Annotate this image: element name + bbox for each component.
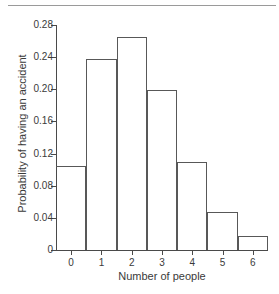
x-tick-label: 0 <box>68 257 74 268</box>
page-divider-rule <box>8 5 276 6</box>
y-tick-label: 0.04 <box>34 213 53 223</box>
y-tick-label: 0.28 <box>34 20 53 30</box>
y-tick-label: 0.24 <box>34 52 53 62</box>
figure-histogram: 00.040.080.120.160.200.240.28 0123456 Pr… <box>0 0 279 294</box>
x-tick-label: 6 <box>250 257 256 268</box>
bar <box>147 90 177 250</box>
x-tick-mark <box>132 250 133 255</box>
bar <box>56 166 86 250</box>
bar <box>117 37 147 250</box>
x-axis-label: Number of people <box>56 270 268 283</box>
y-axis-label-text: Probability of having an accident <box>14 11 30 256</box>
x-tick-mark <box>71 250 72 255</box>
y-tick-label: 0 <box>47 245 53 255</box>
plot-area <box>56 25 268 250</box>
x-tick-label: 1 <box>99 257 105 268</box>
x-tick-label: 3 <box>159 257 165 268</box>
y-axis-label: Probability of having an accident <box>14 0 30 256</box>
x-tick-label: 4 <box>190 257 196 268</box>
y-tick-label: 0.16 <box>34 116 53 126</box>
bar <box>238 236 268 250</box>
bar <box>86 59 116 250</box>
y-tick-label: 0.08 <box>34 181 53 191</box>
bar <box>207 212 237 250</box>
y-tick-label: 0.20 <box>34 84 53 94</box>
bar <box>177 162 207 250</box>
y-tick-label: 0.12 <box>34 149 53 159</box>
x-tick-mark <box>162 250 163 255</box>
x-tick-mark <box>223 250 224 255</box>
x-tick-mark <box>101 250 102 255</box>
x-tick-label: 2 <box>129 257 135 268</box>
x-tick-mark <box>192 250 193 255</box>
x-tick-label: 5 <box>220 257 226 268</box>
x-tick-mark <box>253 250 254 255</box>
